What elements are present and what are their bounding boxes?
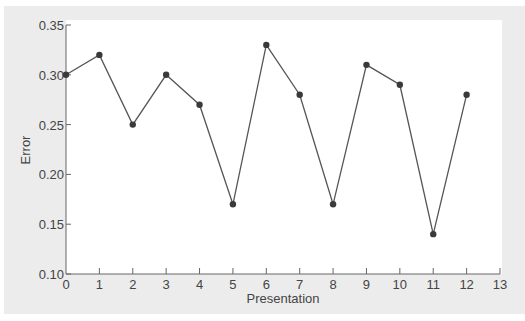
y-tick-label: 0.15 xyxy=(39,217,64,232)
data-point xyxy=(63,72,69,78)
x-tick-label: 3 xyxy=(163,277,170,292)
series-line xyxy=(66,45,467,234)
data-point xyxy=(330,201,336,207)
data-point xyxy=(296,92,302,98)
data-point xyxy=(363,62,369,68)
data-point xyxy=(430,231,436,237)
axes: 0.100.150.200.250.300.350123456789101112… xyxy=(39,18,508,292)
line-chart: 0.100.150.200.250.300.350123456789101112… xyxy=(0,0,525,321)
x-tick-label: 13 xyxy=(493,277,507,292)
x-axis-title: Presentation xyxy=(247,291,320,306)
x-tick-label: 4 xyxy=(196,277,203,292)
y-tick-label: 0.30 xyxy=(39,68,64,83)
x-tick-label: 1 xyxy=(96,277,103,292)
x-tick-label: 12 xyxy=(459,277,473,292)
x-tick-label: 10 xyxy=(393,277,407,292)
data-series xyxy=(63,42,470,238)
data-point xyxy=(397,82,403,88)
y-tick-label: 0.25 xyxy=(39,118,64,133)
y-tick-label: 0.35 xyxy=(39,18,64,33)
data-point xyxy=(263,42,269,48)
x-tick-label: 2 xyxy=(129,277,136,292)
data-point xyxy=(463,92,469,98)
x-tick-label: 5 xyxy=(229,277,236,292)
x-tick-label: 11 xyxy=(426,277,440,292)
data-point xyxy=(130,121,136,127)
x-tick-label: 0 xyxy=(62,277,69,292)
y-tick-label: 0.20 xyxy=(39,167,64,182)
y-axis-title: Error xyxy=(18,135,33,165)
x-tick-label: 7 xyxy=(296,277,303,292)
x-tick-label: 8 xyxy=(329,277,336,292)
y-tick-label: 0.10 xyxy=(39,267,64,282)
data-point xyxy=(230,201,236,207)
data-point xyxy=(196,101,202,107)
data-point xyxy=(163,72,169,78)
x-tick-label: 6 xyxy=(263,277,270,292)
x-tick-label: 9 xyxy=(363,277,370,292)
data-point xyxy=(96,52,102,58)
